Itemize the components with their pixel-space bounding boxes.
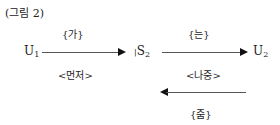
arrow2-label-above: {는} (188, 26, 210, 41)
arrow1-label-above: {가} (62, 26, 84, 41)
arrow-s2-to-u2 (162, 52, 242, 53)
node-u2: U2 (253, 44, 268, 59)
node-s2: |S2 (134, 44, 150, 59)
node-u1-sub: 1 (34, 50, 39, 59)
node-u2-sub: 2 (263, 50, 268, 59)
node-s2-base: S (137, 44, 145, 58)
arrow3-label-below: {줌} (190, 106, 212, 121)
arrowhead-right-icon (240, 48, 248, 56)
node-u1-base: U (24, 44, 34, 58)
arrow2-label-below: <나중> (186, 67, 221, 82)
figure-title: (그림 2) (5, 4, 44, 20)
node-u1: U1 (24, 44, 39, 59)
node-u2-base: U (253, 44, 263, 58)
arrow1-label-below: <먼저> (58, 67, 93, 82)
arrow-u2-to-s2 (166, 92, 246, 93)
arrow-u1-to-s2 (42, 52, 120, 53)
arrowhead-right-icon (118, 48, 126, 56)
node-s2-sub: 2 (145, 50, 150, 59)
